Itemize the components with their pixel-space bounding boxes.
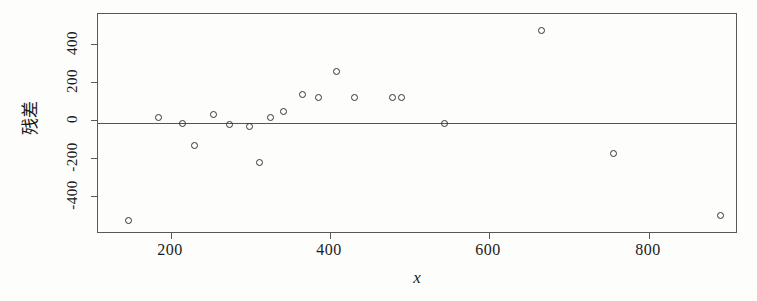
y-tick-mark-200 (91, 82, 98, 83)
scatter-point (389, 94, 396, 101)
scatter-point (351, 94, 358, 101)
x-tick-label-600: 600 (475, 241, 501, 259)
plot-area (97, 13, 737, 233)
y-tick-mark-400 (91, 44, 98, 45)
scatter-point (441, 120, 448, 127)
x-tick-mark-800 (649, 232, 650, 239)
scatter-point (246, 123, 253, 130)
y-tick-label-200: 200 (64, 69, 81, 93)
scatter-point (179, 120, 186, 127)
scatter-points-layer (98, 14, 736, 232)
scatter-point (191, 142, 198, 149)
y-tick-label-neg400: -400 (64, 180, 81, 210)
scatter-point (299, 91, 306, 98)
scatter-point (210, 111, 217, 118)
y-tick-label-0: 0 (64, 115, 81, 123)
x-axis-title: x (413, 268, 421, 288)
x-tick-label-400: 400 (316, 241, 342, 259)
residual-plot-figure: 400 200 0 -200 -400 残差 200 400 600 800 x (0, 0, 757, 301)
scatter-point (315, 94, 322, 101)
scatter-point (280, 108, 287, 115)
scatter-point (538, 27, 545, 34)
scatter-point (717, 212, 724, 219)
scatter-point (125, 217, 132, 224)
y-tick-mark-neg200 (91, 158, 98, 159)
scatter-point (610, 150, 617, 157)
scatter-point (333, 68, 340, 75)
scatter-point (226, 121, 233, 128)
x-tick-label-200: 200 (157, 241, 183, 259)
y-axis-title: 残差 (16, 101, 41, 135)
y-tick-mark-0 (91, 120, 98, 121)
x-tick-mark-200 (171, 232, 172, 239)
scatter-point (267, 114, 274, 121)
x-tick-mark-600 (489, 232, 490, 239)
y-tick-mark-neg400 (91, 196, 98, 197)
y-tick-label-neg200: -200 (64, 142, 81, 172)
x-tick-mark-400 (330, 232, 331, 239)
x-tick-label-800: 800 (635, 241, 661, 259)
scatter-point (398, 94, 405, 101)
y-tick-label-400: 400 (64, 31, 81, 55)
scatter-point (256, 159, 263, 166)
scatter-point (155, 114, 162, 121)
